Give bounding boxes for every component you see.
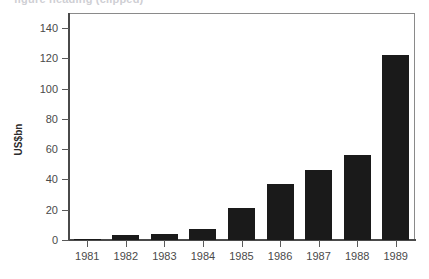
x-tick-mark — [242, 240, 243, 247]
x-tick-label: 1986 — [258, 250, 302, 262]
bar — [344, 155, 371, 240]
y-tick-label: 80 — [28, 119, 58, 120]
x-tick-label: 1987 — [297, 250, 341, 262]
y-tick-label: 140 — [28, 28, 58, 29]
y-tick-label: 100 — [28, 89, 58, 90]
y-tick-label: 60 — [28, 149, 58, 150]
bar-chart: figure heading (clipped) US$bn 020406080… — [0, 0, 429, 279]
y-tick-mark — [62, 240, 69, 241]
x-tick-mark — [280, 240, 281, 247]
y-tick-label: 40 — [28, 179, 58, 180]
x-tick-mark — [357, 240, 358, 247]
x-tick-mark — [319, 240, 320, 247]
x-tick-mark — [126, 240, 127, 247]
x-tick-mark — [87, 240, 88, 247]
clipped-heading-text: figure heading (clipped) — [14, 0, 143, 5]
x-tick-label: 1988 — [335, 250, 379, 262]
bars-layer — [68, 13, 415, 240]
bar — [267, 184, 294, 240]
bar — [305, 170, 332, 240]
bar — [228, 208, 255, 240]
x-tick-label: 1983 — [142, 250, 186, 262]
y-tick-label: 120 — [28, 58, 58, 59]
x-tick-mark — [396, 240, 397, 247]
y-tick-label: 0 — [28, 240, 58, 241]
x-tick-label: 1985 — [220, 250, 264, 262]
x-tick-mark — [203, 240, 204, 247]
x-tick-label: 1984 — [181, 250, 225, 262]
clipped-heading-strip: figure heading (clipped) — [0, 0, 429, 7]
x-tick-mark — [164, 240, 165, 247]
x-tick-label: 1989 — [374, 250, 418, 262]
y-tick-label: 20 — [28, 210, 58, 211]
x-tick-label: 1981 — [65, 250, 109, 262]
x-tick-label: 1982 — [104, 250, 148, 262]
y-axis-label: US$bn — [9, 0, 27, 279]
bar — [382, 55, 409, 240]
bar — [189, 229, 216, 240]
